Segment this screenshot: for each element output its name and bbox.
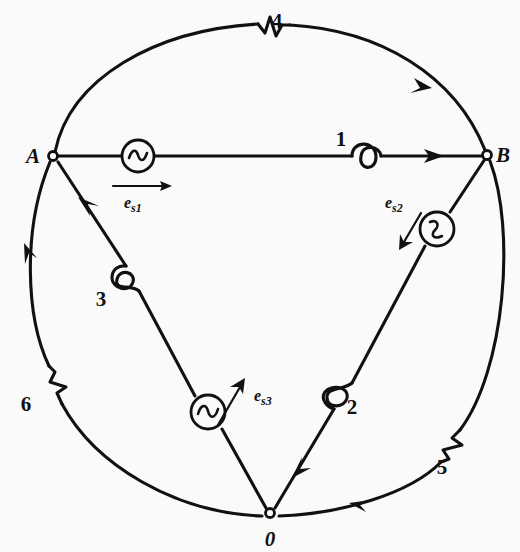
branch-5-label: 5 bbox=[437, 455, 448, 479]
branch-2-flow-arrowhead bbox=[292, 457, 311, 478]
branch-4-wire-right bbox=[290, 25, 485, 150]
source-es2-label-base: e bbox=[385, 194, 392, 211]
branch-2-wire-source-to-inductor bbox=[352, 246, 425, 383]
branch-2-label: 2 bbox=[347, 395, 358, 419]
node-b-label: B bbox=[495, 143, 510, 167]
node-zero-label: 0 bbox=[265, 527, 276, 551]
node-zero-dot bbox=[266, 509, 275, 518]
branch-3-label: 3 bbox=[96, 287, 107, 311]
source-es3-label-sub: s3 bbox=[260, 394, 272, 408]
source-es3-group: es3 bbox=[191, 378, 272, 429]
source-es2-label-sub: s2 bbox=[391, 201, 403, 215]
source-es2-label: es2 bbox=[385, 194, 403, 215]
branch-4-flow-arrowhead bbox=[410, 78, 432, 93]
source-es1-label: es1 bbox=[124, 194, 142, 215]
branch-6-label: 6 bbox=[21, 392, 32, 416]
branch-3-inductor-loop bbox=[112, 266, 139, 291]
branch-6-wire-upper bbox=[30, 162, 50, 366]
branch-1-inductor-loop bbox=[352, 144, 381, 167]
branch-2-group: 2 bbox=[275, 159, 485, 508]
branch-3-group: 3 bbox=[58, 162, 266, 508]
source-es3-label-base: e bbox=[254, 387, 261, 404]
node-a-group: A bbox=[24, 144, 58, 168]
branch-2-wire-b-to-source bbox=[450, 159, 485, 212]
source-es1-group: es1 bbox=[113, 140, 172, 215]
branch-2-wire-inductor-to-zero bbox=[275, 409, 334, 508]
branch-5-wire-upper bbox=[460, 161, 504, 430]
circuit-diagram-canvas: 4 6 5 bbox=[0, 0, 520, 552]
node-b-dot bbox=[483, 151, 492, 160]
source-es3-label: es3 bbox=[254, 387, 272, 408]
branch-3-wire-source-to-inductor bbox=[139, 291, 195, 396]
source-es2-direction-arrow-shaft bbox=[404, 213, 421, 242]
node-zero-group: 0 bbox=[265, 509, 276, 552]
branch-6-resistor-zigzag bbox=[49, 366, 66, 404]
source-es1-label-sub: s1 bbox=[130, 201, 142, 215]
branch-6-group: 6 bbox=[21, 162, 262, 516]
branch-4-wire-left bbox=[55, 24, 258, 152]
branch-1-group: 1 bbox=[56, 127, 484, 167]
source-es2-direction-arrowhead bbox=[399, 234, 413, 250]
branch-3-wire-inductor-to-a bbox=[58, 162, 126, 266]
branch-4-label: 4 bbox=[272, 9, 283, 33]
branch-4-group: 4 bbox=[55, 9, 485, 152]
branch-3-wire-zero-to-source bbox=[222, 429, 266, 508]
circuit-diagram-figure: 4 6 5 bbox=[0, 0, 520, 552]
node-a-dot bbox=[49, 152, 58, 161]
branch-1-label: 1 bbox=[336, 127, 347, 151]
source-es2-group: es2 bbox=[385, 194, 454, 250]
source-es1-label-base: e bbox=[124, 194, 131, 211]
node-b-group: B bbox=[483, 143, 511, 167]
branch-6-wire-lower bbox=[62, 404, 262, 516]
node-a-label: A bbox=[24, 144, 40, 168]
